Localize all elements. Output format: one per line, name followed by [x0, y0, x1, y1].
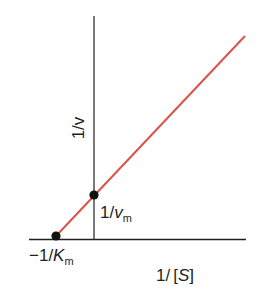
- y-intercept-point: [89, 190, 98, 199]
- lineweaver-burk-chart: 1/v 1/vm −1/Km 1/[S]: [0, 0, 268, 305]
- y-axis-label: 1/v: [69, 116, 88, 139]
- x-axis-label: 1/[S]: [156, 266, 194, 285]
- x-intercept-point: [51, 231, 60, 240]
- x-intercept-label: −1/Km: [29, 246, 74, 267]
- y-intercept-label: 1/vm: [100, 203, 132, 224]
